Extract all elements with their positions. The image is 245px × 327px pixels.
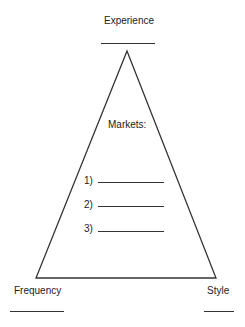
market-item-3-number: 3)	[84, 223, 93, 234]
frequency-label: Frequency	[14, 285, 61, 296]
market-item-2-blank[interactable]	[98, 206, 164, 207]
market-item-1-number: 1)	[84, 175, 93, 186]
market-item-2-number: 2)	[84, 199, 93, 210]
style-blank[interactable]	[204, 311, 234, 312]
frequency-blank[interactable]	[10, 311, 64, 312]
market-item-1-blank[interactable]	[98, 182, 164, 183]
experience-label: Experience	[104, 15, 154, 26]
triangle-outline	[36, 51, 216, 278]
triangle-diagram	[0, 0, 245, 327]
markets-heading: Markets:	[108, 119, 146, 130]
experience-blank[interactable]	[101, 43, 155, 44]
market-item-3-blank[interactable]	[98, 231, 164, 232]
style-label: Style	[207, 285, 229, 296]
